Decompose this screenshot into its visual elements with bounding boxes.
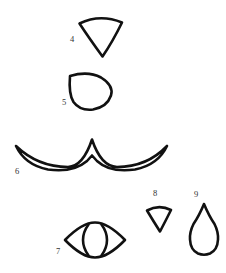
figure-6-group: 6 bbox=[15, 140, 167, 176]
figure-9-label: 9 bbox=[194, 189, 198, 199]
shape-drawing-canvas: 4 5 6 7 8 9 bbox=[0, 0, 226, 273]
figure-4-label: 4 bbox=[70, 34, 75, 44]
figure-5-group: 5 bbox=[62, 74, 112, 110]
eye-inner-lens-left-line bbox=[83, 225, 89, 256]
eye-inner-lens-right-line bbox=[102, 225, 108, 256]
eye-outer-shape bbox=[65, 223, 125, 258]
figure-sheet: 4 5 6 7 8 9 bbox=[0, 0, 226, 273]
figure-8-label: 8 bbox=[153, 188, 157, 198]
teardrop-upper-left-shape bbox=[70, 74, 112, 110]
figure-4-group: 4 bbox=[70, 18, 122, 56]
small-curved-wedge-shape bbox=[147, 207, 171, 231]
figure-8-group: 8 bbox=[147, 188, 171, 232]
figure-7-label: 7 bbox=[56, 246, 60, 256]
figure-9-group: 9 bbox=[190, 189, 218, 255]
double-curve-wing-shape bbox=[16, 140, 167, 171]
curved-wedge-shape bbox=[80, 18, 123, 56]
figure-6-label: 6 bbox=[15, 166, 19, 176]
figure-5-label: 5 bbox=[62, 97, 66, 107]
figure-7-group: 7 bbox=[56, 223, 125, 258]
teardrop-point-up-shape bbox=[190, 204, 218, 255]
